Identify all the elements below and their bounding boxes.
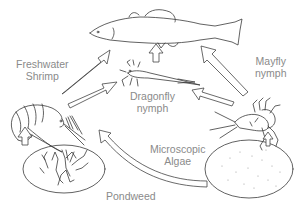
label-mayfly-nymph: Mayfly nymph [255,55,287,79]
arrow-shrimp-to-fish [62,50,110,94]
arrow-mayfly-to-fish [201,46,248,96]
label-microscopic-algae: Microscopic Algae [150,143,205,167]
arrow-shrimp-to-dragonfly [68,82,117,108]
label-line: Pondweed [106,190,156,202]
label-line: Shrimp [16,70,69,82]
dragonfly-nymph-icon [120,60,200,86]
label-line: nymph [130,102,175,114]
pondweed-icon [23,145,105,193]
food-web-diagram: Freshwater Shrimp Dragonfly nymph Mayfly… [0,0,305,207]
label-pondweed: Pondweed [106,190,156,202]
arrow-mayfly-to-dragonfly [192,88,234,106]
algae-icon [205,140,293,198]
label-line: Mayfly [255,55,287,67]
label-line: Algae [150,155,205,167]
arrow-dragonfly-to-fish [149,44,163,62]
label-freshwater-shrimp: Freshwater Shrimp [16,58,69,82]
label-line: nymph [255,67,287,79]
label-line: Microscopic [150,143,205,155]
fish-icon [90,10,242,48]
label-line: Dragonfly [130,90,175,102]
label-dragonfly-nymph: Dragonfly nymph [130,90,175,114]
label-line: Freshwater [16,58,69,70]
